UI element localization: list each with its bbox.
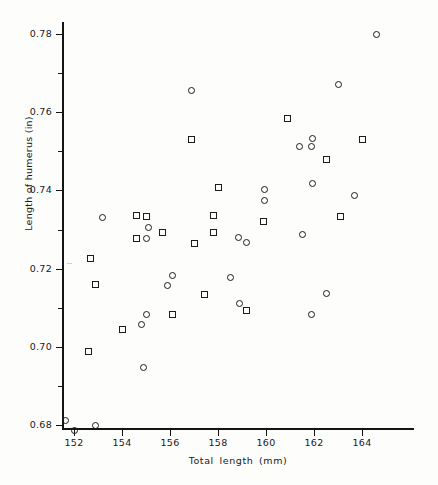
data-point-circle: [373, 31, 380, 38]
x-tick-label: 156: [150, 437, 190, 448]
data-point-circle: [299, 231, 306, 238]
data-point-square: [188, 136, 195, 143]
x-tick-label: 158: [198, 437, 238, 448]
x-tick-label: 160: [246, 437, 286, 448]
data-point-circle: [335, 81, 342, 88]
data-point-circle: [236, 300, 243, 307]
data-point-square: [119, 326, 126, 333]
y-tick-minor: [58, 73, 62, 74]
y-tick-label: 0.78: [18, 28, 52, 39]
data-point-square: [92, 281, 99, 288]
data-point-circle: [169, 272, 176, 279]
data-point-circle: [164, 282, 171, 289]
data-point-circle: [309, 135, 316, 142]
data-point-circle: [261, 186, 268, 193]
data-point-square: [169, 311, 176, 318]
y-tick-minor: [58, 386, 62, 387]
y-tick: [56, 425, 62, 426]
x-tick: [122, 430, 123, 436]
y-tick: [56, 112, 62, 113]
data-point-circle: [188, 87, 195, 94]
data-point-circle: [243, 239, 250, 246]
x-tick: [170, 430, 171, 436]
data-point-circle: [143, 235, 150, 242]
data-point-square: [143, 213, 150, 220]
data-point-square: [191, 240, 198, 247]
x-tick-label: 162: [294, 437, 334, 448]
data-point-square: [215, 184, 222, 191]
data-point-square: [359, 136, 366, 143]
x-tick-label: 152: [54, 437, 94, 448]
x-tick-label: 154: [102, 437, 142, 448]
data-point-circle: [62, 417, 69, 424]
y-tick: [56, 34, 62, 35]
data-point-square: [159, 229, 166, 236]
y-tick-minor: [58, 230, 62, 231]
data-point-circle: [99, 214, 106, 221]
data-point-circle: [143, 311, 150, 318]
data-point-square: [133, 212, 140, 219]
scatter-plot-figure: 0.680.700.720.740.760.78 152154156158160…: [0, 0, 438, 485]
data-point-circle: [71, 427, 78, 434]
x-tick: [218, 430, 219, 436]
data-point-square: [323, 156, 330, 163]
data-point-circle: [351, 192, 358, 199]
data-point-circle: [308, 311, 315, 318]
data-point-circle: [309, 180, 316, 187]
data-point-circle: [138, 321, 145, 328]
x-axis-title: Total length (mm): [62, 455, 414, 466]
data-point-circle: [227, 274, 234, 281]
x-tick: [314, 430, 315, 436]
data-point-circle: [145, 224, 152, 231]
data-point-square: [243, 307, 250, 314]
data-point-square: [210, 212, 217, 219]
data-point-circle: [235, 234, 242, 241]
data-point-square: [337, 213, 344, 220]
data-point-circle: [308, 143, 315, 150]
y-tick: [56, 269, 62, 270]
data-point-circle: [140, 364, 147, 371]
data-point-square: [210, 229, 217, 236]
data-point-square: [87, 255, 94, 262]
data-point-circle: [296, 143, 303, 150]
data-point-circle: [92, 422, 99, 429]
data-point-circle: [261, 197, 268, 204]
y-tick-label: 0.72: [18, 263, 52, 274]
x-tick: [362, 430, 363, 436]
data-point-circle: [323, 290, 330, 297]
plot-area: 0.680.700.720.740.760.78 152154156158160…: [0, 0, 438, 485]
data-point-square: [133, 235, 140, 242]
data-point-square: [260, 218, 267, 225]
x-tick-label: 164: [342, 437, 382, 448]
y-tick-minor: [58, 151, 62, 152]
data-point-square: [201, 291, 208, 298]
data-point-square: [85, 348, 92, 355]
y-tick-label: 0.68: [18, 419, 52, 430]
y-tick-minor: [58, 308, 62, 309]
x-tick: [266, 430, 267, 436]
y-tick-label: 0.70: [18, 341, 52, 352]
scan-artifact: [67, 263, 72, 264]
y-axis-title: Length of humerus (in): [23, 84, 34, 264]
y-tick: [56, 190, 62, 191]
y-axis-line: [62, 22, 64, 430]
y-tick: [56, 347, 62, 348]
data-point-square: [284, 115, 291, 122]
